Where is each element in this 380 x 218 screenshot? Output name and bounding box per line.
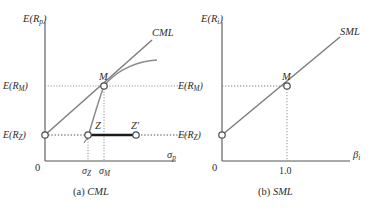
- sml-ytick-erm-sub: M: [194, 85, 200, 93]
- panel-sml: E(Ri) E(RM) E(RZ) 0 1.0 βi SML M (b) SML: [190, 0, 380, 218]
- cml-point-label-zprime: Z′: [131, 121, 139, 132]
- cml-y-axis-title-sub: p: [39, 17, 43, 26]
- sml-ytick-erz-close: ): [198, 129, 201, 140]
- panel-cml: E(Rp) E(RM) E(RZ) 0 σZ σM σp CML M Z Z′ …: [0, 0, 190, 218]
- figure-cml-sml: E(Rp) E(RM) E(RZ) 0 σZ σM σp CML M Z Z′ …: [0, 0, 380, 218]
- sml-ytick-erz-main: E(R: [178, 129, 194, 140]
- point-marker-m[interactable]: [101, 83, 107, 89]
- point-marker-erz-intercept[interactable]: [42, 132, 48, 138]
- sml-line: [222, 37, 340, 135]
- sml-y-axis-title-main: E(R: [201, 13, 217, 24]
- cml-ytick-label-erm: E(RM): [3, 81, 28, 91]
- sml-caption: (b) SML: [258, 187, 293, 198]
- cml-ytick-erz-main: E(R: [3, 129, 19, 140]
- cml-line-label: CML: [152, 28, 174, 39]
- cml-y-axis-title: E(Rp): [23, 14, 47, 25]
- sml-x-axis-title-sub: i: [358, 153, 360, 162]
- cml-y-axis-title-close: ): [43, 13, 47, 24]
- sml-line-label: SML: [340, 27, 360, 38]
- point-marker-zprime[interactable]: [133, 132, 139, 138]
- sml-caption-name: SML: [273, 186, 293, 197]
- cml-xtick-sigma-z-sub: Z: [87, 170, 91, 178]
- cml-caption-name: CML: [87, 186, 109, 197]
- sml-ytick-erz-sub: Z: [194, 134, 198, 142]
- cml-xtick-label-sigma-m: σM: [99, 166, 110, 176]
- cml-caption-prefix: (a): [73, 186, 85, 197]
- cml-xtick-label-sigma-z: σZ: [82, 166, 91, 176]
- cml-ytick-erm-close: ): [25, 80, 28, 91]
- cml-caption: (a) CML: [73, 187, 109, 198]
- cml-ytick-erm-main: E(R: [3, 80, 19, 91]
- cml-ytick-erz-close: ): [23, 129, 26, 140]
- sml-origin-label: 0: [212, 163, 217, 174]
- cml-point-label-m: M: [99, 72, 108, 83]
- sml-caption-prefix: (b): [258, 186, 270, 197]
- cml-ytick-erz-sub: Z: [19, 134, 23, 142]
- point-marker-erz-intercept[interactable]: [219, 132, 225, 138]
- sml-y-axis-title: E(Ri): [201, 14, 223, 25]
- sml-ytick-erm-main: E(R: [178, 80, 194, 91]
- cml-ytick-label-erz: E(RZ): [3, 130, 26, 140]
- cml-x-axis-title: σp: [167, 150, 176, 161]
- sml-ytick-label-erz: E(RZ): [178, 130, 201, 140]
- cml-point-label-z: Z: [95, 121, 101, 132]
- sml-y-axis-title-close: ): [219, 13, 223, 24]
- cml-xtick-sigma-m-sub: M: [104, 170, 110, 178]
- point-marker-m[interactable]: [284, 83, 290, 89]
- sml-ytick-label-erm: E(RM): [178, 81, 203, 91]
- cml-x-axis-title-sub: p: [172, 153, 176, 162]
- sml-x-axis-title: βi: [353, 150, 360, 161]
- sml-ytick-erm-close: ): [200, 80, 203, 91]
- cml-y-axis-title-main: E(R: [23, 13, 39, 24]
- sml-xtick-label-beta-one: 1.0: [279, 166, 292, 176]
- cml-ytick-erm-sub: M: [19, 85, 25, 93]
- point-marker-z[interactable]: [85, 132, 91, 138]
- cml-origin-label: 0: [35, 163, 40, 174]
- sml-point-label-m: M: [282, 72, 291, 83]
